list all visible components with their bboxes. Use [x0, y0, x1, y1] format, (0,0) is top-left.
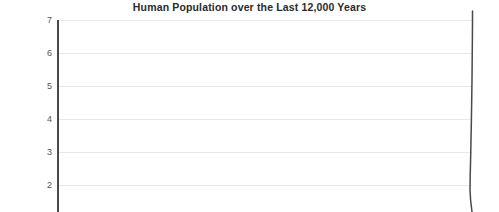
chart-figure: Human Population over the Last 12,000 Ye…: [0, 0, 499, 212]
y-axis-line: [57, 20, 59, 212]
gridline-4: [58, 119, 472, 120]
gridline-3: [58, 152, 472, 153]
gridline-5: [58, 86, 472, 87]
y-tick-label-7: 7: [24, 16, 52, 25]
gridline-2: [58, 185, 472, 186]
plot-area: [58, 20, 472, 212]
y-tick-label-5: 5: [24, 82, 52, 91]
chart-title: Human Population over the Last 12,000 Ye…: [0, 1, 499, 13]
y-tick-label-2: 2: [24, 181, 52, 190]
gridline-6: [58, 53, 472, 54]
y-tick-label-6: 6: [24, 49, 52, 58]
gridline-7: [58, 20, 472, 21]
y-tick-label-3: 3: [24, 148, 52, 157]
y-axis-tick-labels: 7 6 5 4 3 2: [22, 20, 52, 212]
y-tick-label-4: 4: [24, 115, 52, 124]
